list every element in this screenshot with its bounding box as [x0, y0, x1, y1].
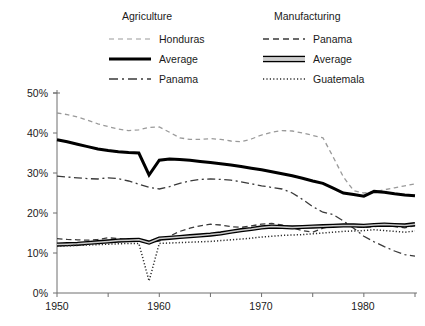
- plot-area: [0, 0, 425, 326]
- chart-container: Agriculture Manufacturing Honduras Avera…: [0, 0, 425, 326]
- series-agriculture-average: [57, 140, 415, 196]
- series-agriculture-panama: [57, 176, 415, 256]
- series-manufacturing-guatemala: [57, 230, 415, 281]
